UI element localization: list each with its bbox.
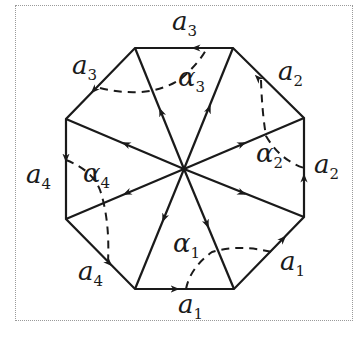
svg-text:a3: a3 — [72, 50, 97, 84]
svg-text:α2: α2 — [256, 138, 283, 172]
octagon-diagram: a3 a2 a2 a1 a1 a4 a4 a3 α3 α2 α1 α4 — [0, 0, 360, 341]
svg-text:a4: a4 — [78, 256, 103, 290]
svg-text:a3: a3 — [172, 6, 197, 40]
angle-labels: α3 α2 α1 α4 — [83, 62, 283, 262]
svg-text:a4: a4 — [26, 159, 51, 193]
svg-text:a1: a1 — [280, 246, 305, 280]
svg-text:α4: α4 — [83, 158, 110, 192]
svg-text:a2: a2 — [314, 149, 339, 183]
svg-text:a1: a1 — [178, 289, 203, 323]
svg-text:α3: α3 — [178, 62, 205, 96]
svg-text:a2: a2 — [278, 56, 303, 90]
svg-text:α1: α1 — [173, 228, 200, 262]
